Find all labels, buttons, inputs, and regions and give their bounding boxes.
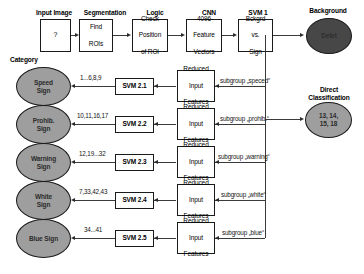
svm-2-2[interactable]: SVM 2.2: [115, 116, 154, 133]
header-category: Category: [10, 57, 66, 64]
arrowhead-blue-sign: [71, 236, 75, 240]
category-speed-sign-label: Speed Sign: [34, 79, 53, 95]
input-image-placeholder: ?: [53, 31, 59, 40]
category-blue-sign-label: Blue Sign: [29, 235, 58, 243]
features-prohib[interactable]: Reduced Input Features: [177, 108, 215, 140]
category-warning-sign[interactable]: Warning Sign: [16, 143, 71, 182]
connector-trunk-to-features3: [215, 162, 265, 163]
arrowhead-svm-2-3: [154, 160, 158, 164]
header-direct-classification: Direct Classification: [297, 86, 361, 101]
svm-2-3-label: SVM 2.3: [121, 158, 147, 166]
classes-blue-sign: 34...41: [84, 226, 102, 233]
diagram-canvas: Input Image Segmentation Logic CNN SVM 1…: [0, 0, 364, 274]
subgroup-prohib: subgroup „prohib.“: [220, 115, 269, 122]
svm-2-4-label: SVM 2.4: [121, 196, 147, 204]
category-blue-sign[interactable]: Blue Sign: [16, 219, 71, 258]
arrowhead-features-blue: [215, 236, 219, 240]
stage-svm1[interactable]: Bckgrd vs. Sign: [238, 19, 273, 52]
features-prohib-label: Reduced Input Features: [181, 103, 210, 145]
arrowhead-features-speed: [215, 84, 219, 88]
classes-white-sign: 7,33,42,43: [79, 188, 107, 195]
arrowhead-svm1: [233, 33, 237, 37]
classes-speed-sign: 1...6,8,9: [80, 74, 101, 81]
node-direct-classification[interactable]: 13, 14, 15, 18: [305, 102, 352, 138]
direct-classification-header-line1: Direct: [320, 86, 338, 93]
connector-svm25-to-blue: [75, 238, 115, 239]
features-warning[interactable]: Reduced Input Features: [177, 146, 215, 178]
stage-logic[interactable]: Check Position of ROI: [132, 19, 168, 52]
features-speed[interactable]: Reduced Input Features: [177, 70, 215, 102]
subgroup-blue: subgroup „blue“: [222, 229, 264, 236]
direct-classification-classes: 13, 14, 15, 18: [319, 112, 338, 128]
svm-2-5[interactable]: SVM 2.5: [115, 230, 154, 247]
svm-2-1[interactable]: SVM 2.1: [115, 78, 154, 95]
stage-cnn[interactable]: 4096 Feature Vectors: [186, 19, 222, 52]
arrowhead-svm-2-1: [154, 84, 158, 88]
arrowhead-segmentation: [75, 33, 79, 37]
arrowhead-features-warning: [215, 160, 219, 164]
category-speed-sign[interactable]: Speed Sign: [16, 67, 71, 106]
connector-trunk-to-features1: [215, 86, 265, 87]
arrowhead-svm-2-2: [154, 122, 158, 126]
svm-2-4[interactable]: SVM 2.4: [115, 192, 154, 209]
stage-input-image[interactable]: ?: [40, 19, 71, 52]
classes-prohib-sign: 10,11,16,17: [77, 112, 108, 119]
arrowhead-prohib-sign: [71, 122, 75, 126]
arrowhead-cnn: [181, 33, 185, 37]
svm-2-2-label: SVM 2.2: [121, 120, 147, 128]
arrowhead-logic: [127, 33, 131, 37]
connector-segmentation-to-logic: [113, 35, 128, 36]
arrowhead-direct-classification: [300, 117, 304, 121]
category-warning-sign-label: Warning Sign: [31, 155, 56, 171]
connector-trunk-to-features4: [215, 200, 265, 201]
arrowhead-svm-2-5: [154, 236, 158, 240]
features-white[interactable]: Reduced Input Features: [177, 184, 215, 216]
direct-classification-header-line2: Classification: [308, 94, 349, 101]
features-white-label: Reduced Input Features: [181, 179, 210, 221]
arrowhead-warning-sign: [71, 160, 75, 164]
connector-trunk-to-direct: [265, 119, 301, 120]
subgroup-white: subgroup „white“: [221, 191, 266, 198]
header-background: Background: [297, 8, 359, 15]
arrowhead-features-white: [215, 198, 219, 202]
node-background-delete[interactable]: Delet: [306, 18, 352, 54]
connector-svm21-to-speed: [75, 86, 115, 87]
category-prohib-sign[interactable]: Prohib. Sign: [16, 105, 71, 144]
subgroup-speed: subgroup „speced“: [220, 77, 270, 84]
background-delete-label: Delet: [321, 32, 336, 40]
arrowhead-svm-2-4: [154, 198, 158, 202]
category-white-sign[interactable]: White Sign: [16, 181, 71, 220]
features-blue-label: Reduced Input Features: [181, 217, 210, 259]
logic-label: Check Position of ROI: [137, 15, 163, 57]
svm-2-1-label: SVM 2.1: [121, 82, 147, 90]
connector-trunk-to-features5: [215, 238, 265, 239]
features-warning-label: Reduced Input Features: [181, 141, 210, 183]
connector-svm24-to-white: [75, 200, 115, 201]
svm-2-3[interactable]: SVM 2.3: [115, 154, 154, 171]
category-white-sign-label: White Sign: [35, 193, 52, 209]
category-prohib-sign-label: Prohib. Sign: [33, 117, 55, 133]
connector-svm23-to-warning: [75, 162, 115, 163]
trunk-vertical-main: [265, 35, 266, 238]
cnn-label: 4096 Feature Vectors: [191, 15, 217, 57]
segmentation-label: Find ROIs: [87, 23, 105, 48]
features-blue[interactable]: Reduced Input Features: [177, 222, 215, 254]
arrowhead-white-sign: [71, 198, 75, 202]
subgroup-warning: subgroup „warning“: [218, 153, 270, 160]
connector-svm1-to-background: [273, 35, 301, 36]
classes-warning-sign: 12,19...32: [79, 150, 106, 157]
arrowhead-speed-sign: [71, 84, 75, 88]
connector-trunk-to-features2: [215, 124, 265, 125]
features-speed-label: Reduced Input Features: [181, 65, 210, 107]
connector-logic-to-cnn: [168, 35, 182, 36]
connector-svm22-to-prohib: [75, 124, 115, 125]
svm1-label: Bckgrd vs. Sign: [244, 15, 268, 57]
arrowhead-features-prohib: [215, 122, 219, 126]
svm-2-5-label: SVM 2.5: [121, 234, 147, 242]
stage-segmentation[interactable]: Find ROIs: [79, 19, 113, 52]
arrowhead-background: [300, 33, 304, 37]
